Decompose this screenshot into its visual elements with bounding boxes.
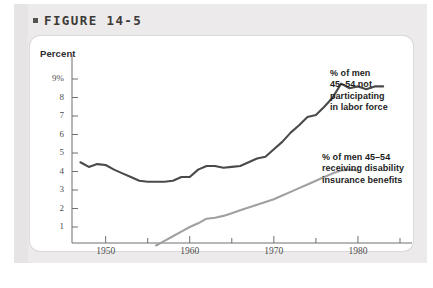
y-tick-label: 9% [42, 73, 64, 83]
y-tick-label: 7 [42, 110, 64, 120]
chart-plot-area: Percent 123456789%1950196019701980 % of … [0, 0, 433, 288]
y-tick-label: 4 [42, 166, 64, 176]
x-tick-label: 1980 [338, 246, 378, 256]
y-tick-label: 1 [42, 221, 64, 231]
x-tick-label: 1950 [86, 246, 126, 256]
series-label-line: % of men 45–54 [322, 152, 404, 163]
figure-screenshot: FIGURE 14-5 Percent 123456789%1950196019… [0, 0, 433, 288]
series-label-line: 45–54 not [330, 79, 388, 90]
x-tick-label: 1970 [254, 246, 294, 256]
series-label-1: % of men45–54 notparticipatingin labor f… [330, 68, 388, 114]
x-tick-label: 1960 [170, 246, 210, 256]
series-label-2: % of men 45–54receiving disabilityinsura… [322, 152, 404, 186]
series-label-line: participating [330, 91, 388, 102]
series-label-line: in labor force [330, 102, 388, 113]
y-tick-label: 5 [42, 147, 64, 157]
line-chart-svg [0, 0, 433, 288]
series-label-line: receiving disability [322, 163, 404, 174]
y-tick-label: 6 [42, 129, 64, 139]
y-tick-label: 2 [42, 203, 64, 213]
y-tick-label: 3 [42, 184, 64, 194]
series-label-line: insurance benefits [322, 175, 404, 186]
y-tick-label: 8 [42, 92, 64, 102]
series-label-line: % of men [330, 68, 388, 79]
